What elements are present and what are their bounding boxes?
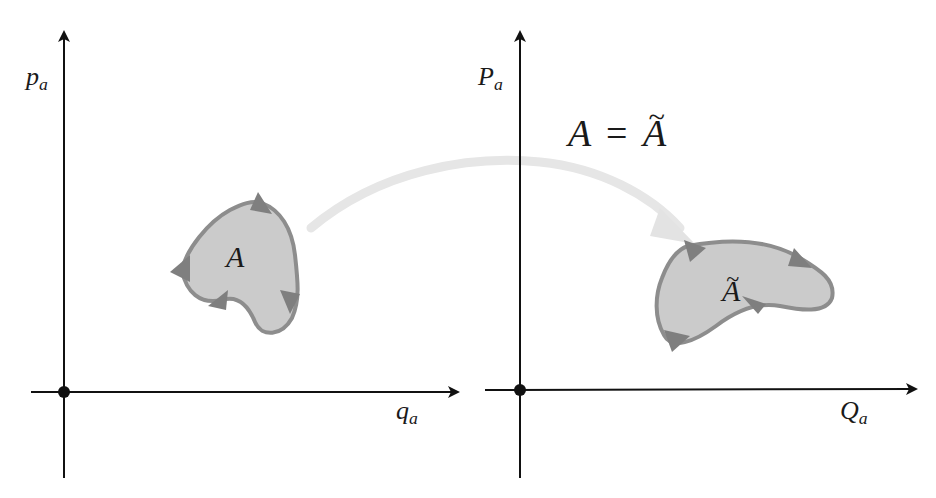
left-x-label-base: q <box>396 396 409 425</box>
left-y-label-sub: a <box>39 74 48 94</box>
phase-space-diagram <box>0 0 936 498</box>
left-y-axis-label: pa <box>26 64 48 94</box>
area-equation: A = ~A <box>568 114 666 152</box>
right-origin-dot <box>514 384 526 396</box>
right-x-axis <box>485 389 916 390</box>
tilde-accent: ~ <box>648 102 664 132</box>
region-a-tilde-label: ~A <box>722 276 740 306</box>
left-x-axis-label: qa <box>396 398 418 428</box>
left-x-label-sub: a <box>409 408 418 428</box>
right-x-label-base: Q <box>840 396 859 425</box>
orientation-arrow <box>170 255 190 282</box>
equation-lhs: A <box>568 112 591 154</box>
right-y-axis-label: Pa <box>478 64 503 94</box>
right-x-axis-label: Qa <box>840 398 868 428</box>
mapping-arrow <box>311 160 695 244</box>
right-y-label-base: P <box>478 62 494 91</box>
region-a-tilde <box>657 240 833 352</box>
equation-rhs: ~A <box>643 114 666 152</box>
left-origin-dot <box>58 386 70 398</box>
equation-operator: = <box>600 112 633 154</box>
region-a-label: A <box>226 242 244 272</box>
right-y-label-sub: a <box>494 74 503 94</box>
tilde-accent: ~ <box>726 267 739 291</box>
left-y-label-base: p <box>26 62 39 91</box>
orientation-arrow <box>788 248 812 268</box>
right-x-label-sub: a <box>859 408 868 428</box>
